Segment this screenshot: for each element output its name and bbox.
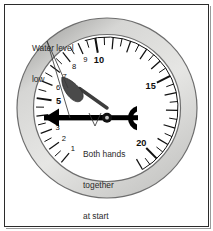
water-level-line-2: low [32, 74, 74, 84]
svg-text:9: 9 [83, 55, 87, 64]
annotation-water-level: Water level low [32, 22, 74, 105]
svg-text:1: 1 [71, 144, 75, 153]
gauge-hub [102, 113, 112, 123]
annotation-both-hands: Both hands together at start of furnace … [83, 128, 125, 231]
gauge-stage: 123456789101520 [0, 0, 213, 231]
svg-text:2: 2 [62, 134, 66, 143]
both-hands-line-1: Both hands [83, 149, 125, 159]
svg-text:10: 10 [94, 55, 104, 65]
both-hands-line-3: at start [83, 211, 125, 221]
figure-canvas: 123456789101520 [0, 0, 213, 231]
svg-text:20: 20 [136, 138, 146, 148]
svg-text:15: 15 [146, 81, 156, 91]
water-level-line-1: Water level [32, 43, 74, 53]
both-hands-line-2: together [83, 180, 125, 190]
